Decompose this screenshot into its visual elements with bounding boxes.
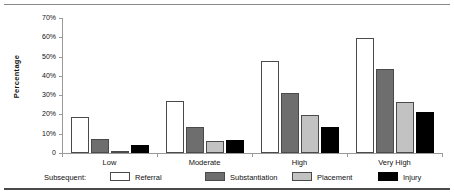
y-tick-label: 50% (22, 53, 56, 60)
bar-substantiation-low (91, 139, 109, 153)
chart-figure: Percentage 70%60%50%40%30%20%10%0 LowMod… (0, 0, 454, 194)
bar-injury-high (321, 127, 339, 153)
y-tick-mark (59, 76, 63, 77)
bar-referral-very-high (356, 38, 374, 153)
y-tick-mark (59, 134, 63, 135)
y-tick-mark (59, 37, 63, 38)
bar-substantiation-high (281, 93, 299, 153)
y-tick-label: 30% (22, 91, 56, 98)
bar-placement-low (111, 151, 129, 153)
plot-area: 70%60%50%40%30%20%10%0 (62, 18, 442, 154)
bar-injury-very-high (416, 112, 434, 153)
bar-placement-moderate (206, 141, 224, 153)
bottom-divider (4, 188, 450, 190)
chart-legend: Subsequent: ReferralSubstantiationPlacem… (0, 170, 454, 184)
y-tick-label: 70% (22, 14, 56, 21)
x-category-label-moderate: Moderate (189, 158, 221, 167)
y-axis-title: Percentage (12, 29, 21, 125)
bar-injury-low (131, 145, 149, 153)
y-tick-label: 40% (22, 72, 56, 79)
legend-swatch-injury-icon (378, 172, 398, 181)
x-tick-mark (157, 153, 158, 157)
x-tick-mark (252, 153, 253, 157)
y-tick-mark (59, 18, 63, 19)
bar-referral-high (261, 61, 279, 153)
bar-placement-very-high (396, 102, 414, 153)
legend-label-referral: Referral (135, 173, 162, 182)
x-tick-mark (442, 153, 443, 157)
y-tick-label: 0 (22, 149, 56, 156)
legend-label-placement: Placement (317, 173, 352, 182)
legend-title: Subsequent: (44, 173, 86, 182)
x-tick-mark (62, 153, 63, 157)
y-tick-label: 20% (22, 110, 56, 117)
legend-swatch-placement-icon (292, 172, 312, 181)
y-tick-label: 60% (22, 33, 56, 40)
top-divider (4, 4, 450, 5)
x-category-label-low: Low (103, 158, 117, 167)
bar-substantiation-very-high (376, 69, 394, 153)
x-tick-mark (347, 153, 348, 157)
x-category-label-very-high: Very High (378, 158, 411, 167)
x-category-label-high: High (292, 158, 307, 167)
legend-label-injury: Injury (403, 173, 421, 182)
bar-referral-low (71, 117, 89, 153)
legend-swatch-substantiation-icon (205, 172, 225, 181)
y-tick-mark (59, 114, 63, 115)
y-tick-mark (59, 95, 63, 96)
bar-substantiation-moderate (186, 127, 204, 153)
bar-placement-high (301, 115, 319, 153)
legend-swatch-referral-icon (110, 172, 130, 181)
y-tick-mark (59, 57, 63, 58)
y-tick-label: 10% (22, 130, 56, 137)
bar-referral-moderate (166, 101, 184, 153)
bar-injury-moderate (226, 140, 244, 153)
legend-label-substantiation: Substantiation (230, 173, 278, 182)
